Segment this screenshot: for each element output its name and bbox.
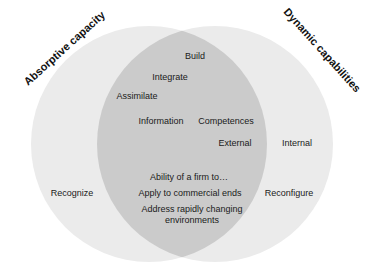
label-build: Build	[185, 51, 205, 62]
label-ability: Ability of a firm to…	[150, 172, 228, 183]
label-information: Information	[138, 116, 183, 127]
label-external: External	[218, 138, 251, 149]
label-competences: Competences	[198, 116, 254, 127]
label-address: Address rapidly changing environments	[141, 204, 242, 226]
label-address-line1: Address rapidly changing	[141, 204, 242, 214]
label-reconfigure: Reconfigure	[265, 188, 314, 199]
label-internal: Internal	[282, 138, 312, 149]
label-apply: Apply to commercial ends	[138, 188, 241, 199]
label-integrate: Integrate	[152, 72, 188, 83]
label-assimilate: Assimilate	[116, 91, 157, 102]
label-recognize: Recognize	[51, 188, 94, 199]
label-address-line2: environments	[165, 215, 219, 225]
